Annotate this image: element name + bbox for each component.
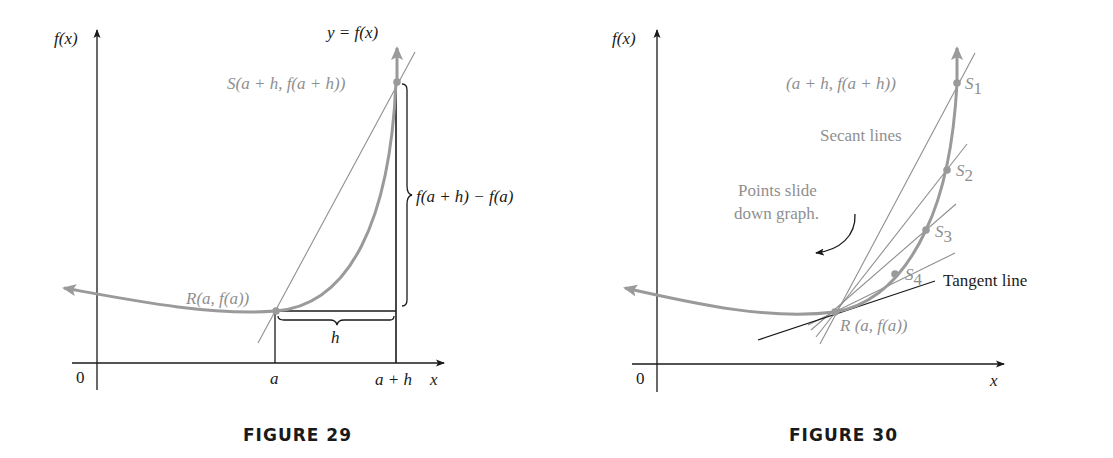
run-label: h [331,328,340,347]
figure-30: f(x) (a + h, f(a + h)) S1 S2 S3 S4 Secan… [612,29,1027,445]
x-axis-label: x [989,371,998,390]
x-axis-label: x [429,370,438,389]
point-S2-label: S2 [956,161,973,185]
slide-note-line2: down graph. [734,204,819,223]
figures-canvas: f(x) y = f(x) S(a + h, f(a + h)) R(a, f(… [0,0,1113,458]
function-curve [64,82,396,312]
secant-line [258,52,415,343]
point-S2 [943,166,951,174]
point-R-label: R(a, f(a)) [185,289,250,308]
tangent-line-label: Tangent line [943,271,1027,290]
point-S3 [922,226,930,234]
rise-label: f(a + h) − f(a) [416,187,514,206]
curve-label: y = f(x) [325,23,378,42]
secant-line-1 [820,53,975,344]
point-S3-label: S3 [935,222,952,246]
point-S1 [953,79,961,87]
slide-note-line1: Points slide [738,181,817,200]
point-S-label: S(a + h, f(a + h)) [227,74,346,93]
point-R-label: R (a, f(a)) [839,316,908,335]
rise-brace [402,84,412,306]
point-S4-label: S4 [905,265,923,289]
y-axis-label: f(x) [612,29,636,48]
tick-a-label: a [270,369,279,388]
point-R [831,308,839,316]
figure-29: f(x) y = f(x) S(a + h, f(a + h)) R(a, f(… [54,23,514,445]
point-S [393,78,401,86]
figure-29-caption: FIGURE 29 [243,425,352,445]
point-S1-label: S1 [965,74,982,98]
tick-a-plus-h-label: a + h [375,370,412,389]
slide-arrow-icon [816,214,855,253]
y-axis-label: f(x) [54,29,78,48]
run-brace [278,316,394,325]
figure-30-caption: FIGURE 30 [789,425,898,445]
secant-lines-label: Secant lines [820,126,902,145]
origin-label: 0 [636,369,645,388]
origin-label: 0 [76,368,85,387]
point-top-label: (a + h, f(a + h)) [786,74,896,93]
point-S4 [891,270,899,278]
point-R [272,307,280,315]
